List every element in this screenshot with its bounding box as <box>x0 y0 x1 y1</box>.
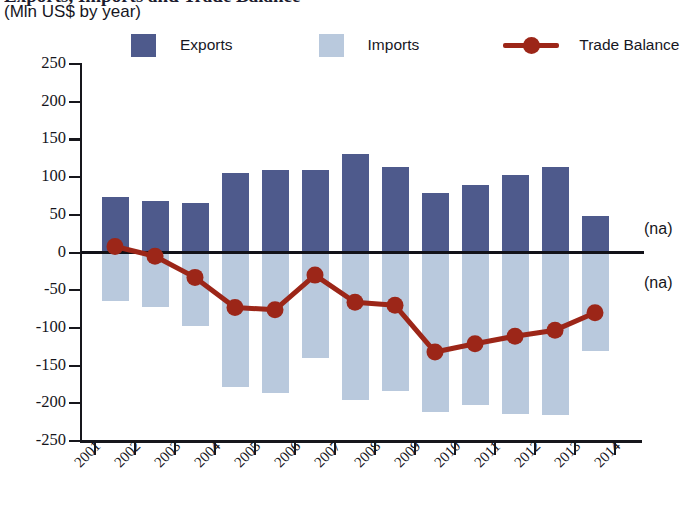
y-tick-label: 200 <box>0 93 66 109</box>
y-tick <box>69 252 80 254</box>
trade-balance-point <box>107 238 124 255</box>
na-label-below: (na) <box>644 274 672 292</box>
legend-item-imports[interactable]: Imports <box>319 34 420 57</box>
trade-balance-point <box>387 297 404 314</box>
legend-item-trade-balance[interactable]: Trade Balance <box>503 35 679 55</box>
y-tick <box>69 214 80 216</box>
x-tick-label: 2007 <box>311 438 344 471</box>
imports-swatch-icon <box>319 34 344 57</box>
chart-legend: Exports Imports Trade Balance <box>131 32 680 58</box>
y-tick <box>69 176 80 178</box>
y-tick <box>69 289 80 291</box>
trade-balance-point <box>347 294 364 311</box>
x-tick-label: 2004 <box>191 438 224 471</box>
x-tick-label: 2010 <box>431 438 464 471</box>
trade-balance-point <box>227 299 244 316</box>
y-tick <box>69 402 80 404</box>
trade-balance-point <box>187 269 204 286</box>
trade-balance-line-layer <box>81 64 641 441</box>
x-tick-label: 2002 <box>111 438 144 471</box>
legend-label-imports: Imports <box>368 36 420 54</box>
trade-balance-point <box>547 322 564 339</box>
x-tick-label: 2011 <box>471 438 504 471</box>
x-tick-label: 2012 <box>511 438 544 471</box>
y-tick-label: -50 <box>0 281 66 297</box>
trade-balance-point <box>267 301 284 318</box>
x-tick-label: 2008 <box>351 438 384 471</box>
y-tick <box>69 63 80 65</box>
trade-balance-point <box>587 304 604 321</box>
y-tick-label: 100 <box>0 168 66 184</box>
exports-swatch-icon <box>131 34 156 57</box>
na-label-above: (na) <box>644 220 672 238</box>
x-tick-label: 2003 <box>151 438 184 471</box>
y-tick-label: -100 <box>0 319 66 335</box>
trade-balance-point <box>147 248 164 265</box>
trade-balance-point <box>467 335 484 352</box>
y-tick-label: -200 <box>0 394 66 410</box>
trade-balance-point <box>507 328 524 345</box>
trade-balance-point <box>307 267 324 284</box>
y-tick-label: 250 <box>0 55 66 71</box>
x-tick-label: 2013 <box>551 438 584 471</box>
y-tick <box>69 440 80 442</box>
x-tick-label: 2005 <box>231 438 264 471</box>
y-tick <box>69 327 80 329</box>
y-tick-label: 0 <box>0 244 66 260</box>
x-tick-label: 2006 <box>271 438 304 471</box>
y-tick-label: -150 <box>0 357 66 373</box>
y-tick <box>69 138 80 140</box>
y-tick-label: 50 <box>0 206 66 222</box>
trade-balance-line-marker-icon <box>503 35 559 55</box>
y-tick <box>69 101 80 103</box>
legend-label-exports: Exports <box>180 36 233 54</box>
y-tick <box>69 365 80 367</box>
y-tick-label: 150 <box>0 130 66 146</box>
legend-label-trade-balance: Trade Balance <box>579 36 679 54</box>
x-tick-label: 2009 <box>391 438 424 471</box>
x-tick-label: 2001 <box>71 438 104 471</box>
chart-subtitle: (Mln US$ by year) <box>4 2 141 22</box>
y-tick-label: -250 <box>0 432 66 448</box>
x-tick-label: 2014 <box>591 438 624 471</box>
trade-balance-point <box>427 344 444 361</box>
legend-item-exports[interactable]: Exports <box>131 34 233 57</box>
